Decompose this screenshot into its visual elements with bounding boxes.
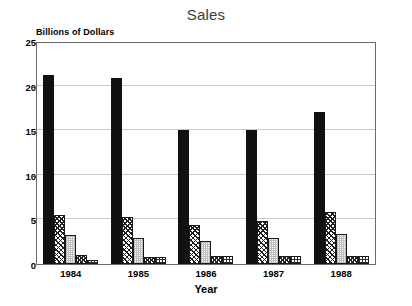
bar (211, 256, 222, 264)
bar (358, 256, 369, 264)
bar (222, 256, 233, 264)
sales-bar-chart: Sales Billions of Dollars 0510152025 198… (0, 0, 412, 306)
y-tick-label: 0 (6, 260, 36, 271)
plot-area (36, 42, 376, 265)
bar (133, 238, 144, 264)
x-tick-label: 1988 (331, 268, 352, 279)
y-tick-mark (31, 176, 36, 177)
x-tick-label: 1984 (60, 268, 81, 279)
y-tick-label: 25 (6, 37, 36, 48)
bar-group (314, 43, 369, 264)
bar (111, 78, 122, 264)
bar (200, 241, 211, 264)
x-tick-label: 1987 (263, 268, 284, 279)
chart-title: Sales (0, 6, 412, 23)
bar (54, 215, 65, 264)
bar (325, 212, 336, 264)
bar-group (178, 43, 233, 264)
bar (189, 225, 200, 264)
bar-groups (37, 43, 375, 264)
bar (290, 256, 301, 264)
x-tick-label: 1986 (195, 268, 216, 279)
bar (178, 130, 189, 264)
bar (279, 256, 290, 264)
y-tick-mark (31, 87, 36, 88)
bar (76, 255, 87, 264)
bar (43, 75, 54, 264)
x-axis-label: Year (36, 283, 376, 295)
bar (314, 112, 325, 264)
bar (257, 221, 268, 264)
bar-group (111, 43, 166, 264)
y-tick-mark (31, 131, 36, 132)
bar (336, 234, 347, 264)
bar-group (43, 43, 98, 264)
y-tick-mark (31, 220, 36, 221)
bar (155, 257, 166, 264)
bar (268, 238, 279, 264)
x-tick-label: 1985 (128, 268, 149, 279)
bar (65, 235, 76, 264)
bar (122, 217, 133, 264)
y-axis-label: Billions of Dollars (36, 27, 114, 37)
bar (246, 130, 257, 264)
bar (347, 256, 358, 264)
bar-group (246, 43, 301, 264)
bar (87, 260, 98, 264)
bar (144, 257, 155, 264)
